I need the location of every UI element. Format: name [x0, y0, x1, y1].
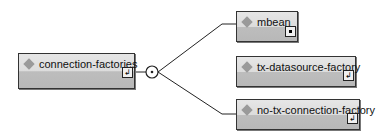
element-diamond-icon — [23, 58, 34, 69]
element-diamond-icon — [241, 61, 252, 72]
schema-diagram: connection-factories ↲ mbean tx-datasour… — [0, 0, 380, 135]
expand-toggle-icon[interactable]: ↲ — [343, 70, 354, 81]
choice-compositor-icon[interactable] — [146, 66, 158, 78]
element-diamond-icon — [241, 104, 252, 115]
element-connection-factories[interactable]: connection-factories ↲ — [18, 53, 135, 89]
element-tx-datasource-factory[interactable]: tx-datasource-factory ↲ — [236, 56, 356, 87]
element-diamond-icon — [241, 16, 252, 27]
collapsed-content-icon[interactable] — [285, 26, 296, 37]
element-no-tx-connection-factory[interactable]: no-tx-connection-factory ↲ — [236, 99, 360, 130]
element-mbean[interactable]: mbean — [236, 11, 298, 42]
expand-toggle-icon[interactable]: ↲ — [122, 67, 133, 78]
expand-toggle-icon[interactable]: ↲ — [347, 113, 358, 124]
